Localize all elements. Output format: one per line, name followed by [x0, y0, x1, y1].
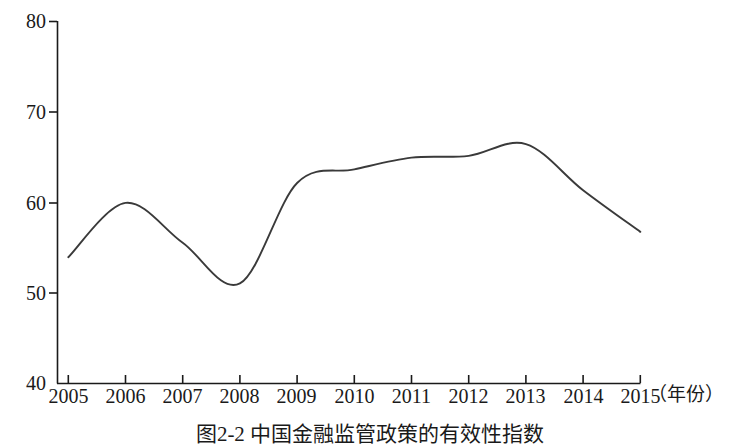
x-tick-label-2008: 2008 [211, 386, 268, 406]
x-tick-label-2011: 2011 [383, 386, 440, 406]
x-tick-label-2012: 2012 [440, 386, 497, 406]
x-tick-label-2006: 2006 [97, 386, 154, 406]
x-tick-label-2005: 2005 [40, 386, 97, 406]
x-tick-label-2010: 2010 [326, 386, 383, 406]
figure-caption: 图2-2 中国金融监管政策的有效性指数 [0, 423, 740, 446]
y-tick-label-60: 60 [4, 193, 46, 213]
x-tick-label-2009: 2009 [268, 386, 325, 406]
x-tick-label-2013: 2013 [497, 386, 554, 406]
x-axis-title: （年份） [648, 385, 724, 404]
x-tick-label-2014: 2014 [555, 386, 612, 406]
y-tick-label-50: 50 [4, 283, 46, 303]
y-tick-label-70: 70 [4, 102, 46, 122]
y-tick-label-80: 80 [4, 11, 46, 31]
x-tick-label-2007: 2007 [154, 386, 211, 406]
